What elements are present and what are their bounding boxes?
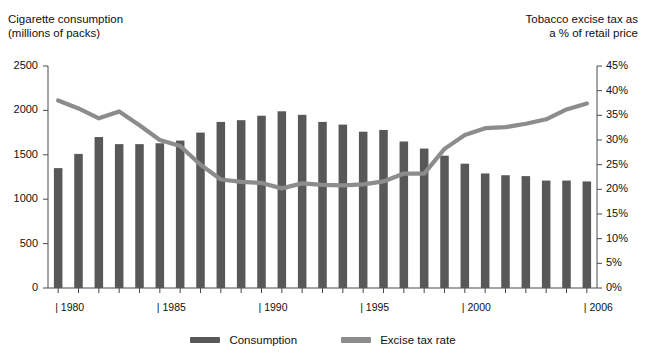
y-axis-tick-label: 0 (4, 281, 38, 293)
bar-consumption (217, 122, 226, 288)
bar-consumption (176, 141, 185, 288)
chart-legend: Consumption Excise tax rate (0, 328, 646, 352)
bar-consumption (156, 143, 165, 288)
x-axis-tick-label: | 1980 (55, 301, 84, 313)
y2-axis-tick-label: 0% (606, 281, 646, 293)
bar-consumption (400, 141, 409, 288)
bar-consumption (359, 132, 368, 288)
bar-consumption (298, 115, 307, 288)
bar-consumption (95, 137, 104, 288)
bar-consumption (379, 130, 388, 288)
bar-consumption (54, 168, 63, 288)
legend-entry-consumption: Consumption (190, 334, 297, 346)
bar-consumption (562, 181, 571, 288)
y2-axis-tick-label: 15% (606, 207, 646, 219)
y2-axis-tick-label: 30% (606, 133, 646, 145)
y2-axis-tick-label: 20% (606, 182, 646, 194)
x-axis-tick-label: | 1995 (360, 301, 389, 313)
y2-axis-tick-label: 25% (606, 158, 646, 170)
bar-consumption (278, 111, 287, 288)
y-axis-tick-label: 1000 (4, 192, 38, 204)
y2-axis-tick-label: 10% (606, 232, 646, 244)
y-axis-tick-label: 2000 (4, 103, 38, 115)
y2-axis-tick-label: 45% (606, 59, 646, 71)
legend-entry-excise-tax-rate: Excise tax rate (341, 334, 455, 346)
bar-consumption (257, 116, 266, 288)
bar-consumption (522, 176, 531, 288)
bar-consumption (461, 164, 470, 288)
bar-consumption (135, 144, 144, 288)
y-axis-tick-label: 2500 (4, 59, 38, 71)
y2-axis-tick-label: 40% (606, 84, 646, 96)
bar-consumption (440, 156, 449, 288)
x-axis-tick-label: | 2000 (462, 301, 491, 313)
legend-swatch-consumption (190, 337, 220, 343)
legend-label-excise-tax-rate: Excise tax rate (380, 334, 455, 346)
bar-consumption (318, 122, 327, 288)
x-axis-tick-label: | 1985 (157, 301, 186, 313)
bar-consumption (237, 120, 246, 288)
bar-consumption (481, 173, 490, 288)
bar-consumption (74, 154, 83, 288)
x-axis-tick-label: | 1990 (259, 301, 288, 313)
bar-consumption (339, 125, 348, 288)
y2-axis-tick-label: 5% (606, 256, 646, 268)
legend-label-consumption: Consumption (229, 334, 297, 346)
chart-plot-area (0, 0, 646, 359)
bar-consumption (542, 181, 551, 288)
legend-swatch-excise-tax-rate (341, 337, 371, 343)
x-axis-tick-label: | 2006 (584, 301, 613, 313)
bar-consumption (115, 144, 124, 288)
y-axis-tick-label: 500 (4, 237, 38, 249)
chart-figure: Cigarette consumption (millions of packs… (0, 0, 646, 359)
bar-consumption (583, 181, 592, 288)
y-axis-tick-label: 1500 (4, 148, 38, 160)
bar-consumption (501, 175, 510, 288)
y2-axis-tick-label: 35% (606, 108, 646, 120)
bar-consumption (196, 133, 205, 288)
